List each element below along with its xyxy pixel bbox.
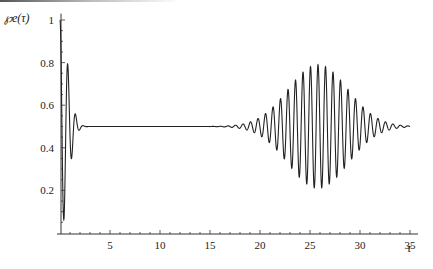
x-tick-label: 30 — [355, 239, 367, 251]
x-tick-label: 25 — [305, 239, 317, 251]
x-axis-title: τ — [407, 241, 412, 255]
x-axis-ticks: 5101520253035 — [70, 230, 416, 251]
y-tick-label: 0.6 — [40, 99, 54, 111]
x-tick-label: 15 — [205, 239, 217, 251]
series-line — [60, 20, 410, 220]
axes — [57, 14, 418, 234]
x-tick-label: 5 — [107, 239, 113, 251]
y-axis-title: ℘e(τ) — [4, 11, 30, 25]
y-tick-label: 0.8 — [40, 57, 54, 69]
line-chart: 5101520253035 0.20.40.60.81 ℘e(τ) τ — [0, 0, 433, 269]
y-tick-label: 0.4 — [40, 142, 54, 154]
y-tick-label: 1 — [49, 14, 55, 26]
y-tick-label: 0.2 — [40, 184, 54, 196]
x-tick-label: 10 — [155, 239, 167, 251]
x-tick-label: 20 — [255, 239, 267, 251]
